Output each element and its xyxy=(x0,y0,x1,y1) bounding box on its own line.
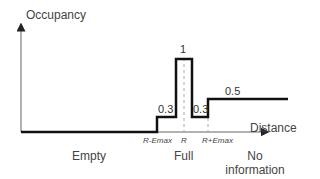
tick-r: R xyxy=(181,137,187,145)
y-axis-label: Occupancy xyxy=(26,9,86,21)
x-axis-label: Distance xyxy=(250,122,297,134)
peak-value-label: 1 xyxy=(180,44,186,55)
tick-r-plus-emax: R+Emax xyxy=(202,137,233,145)
region-no-information-line2: information xyxy=(220,164,290,176)
region-no-information-line1: No xyxy=(220,150,290,162)
tick-r-minus-emax: R-Emax xyxy=(143,137,172,145)
region-no-information-label: No information xyxy=(220,150,290,176)
pre-peak-value-label: 0.3 xyxy=(158,104,173,115)
post-peak-value-label: 0.3 xyxy=(193,104,208,115)
occupancy-profile-line xyxy=(21,59,288,132)
far-value-label: 0.5 xyxy=(225,86,240,97)
region-full-label: Full xyxy=(174,150,193,162)
region-empty-label: Empty xyxy=(72,150,106,162)
